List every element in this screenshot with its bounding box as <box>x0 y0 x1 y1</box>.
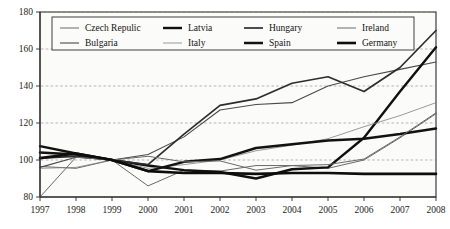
legend-label-ireland: Ireland <box>362 23 389 33</box>
x-tick-label: 2002 <box>211 205 230 215</box>
y-axis-labels: 80100120140160180 <box>19 7 34 202</box>
legend-label-hungary: Hungary <box>269 23 302 33</box>
legend: Czech RepulicLatviaHungaryIrelandBulgari… <box>52 17 414 50</box>
legend-label-spain: Spain <box>269 38 291 48</box>
y-axis-ticks <box>36 12 40 197</box>
x-axis-labels: 1997199819992000200120022003200420052006… <box>31 205 446 215</box>
x-tick-label: 2004 <box>283 205 302 215</box>
x-tick-label: 1998 <box>67 205 86 215</box>
x-axis-ticks <box>40 197 436 201</box>
y-tick-label: 100 <box>19 155 34 165</box>
legend-label-czech-repulic: Czech Repulic <box>85 23 141 33</box>
x-tick-label: 1999 <box>103 205 122 215</box>
y-tick-label: 180 <box>19 7 34 17</box>
legend-label-latvia: Latvia <box>188 23 213 33</box>
x-tick-label: 2005 <box>319 205 338 215</box>
x-tick-label: 2003 <box>247 205 266 215</box>
y-tick-label: 160 <box>19 44 34 54</box>
legend-label-italy: Italy <box>188 38 206 48</box>
legend-label-bulgaria: Bulgaria <box>85 38 118 48</box>
legend-label-germany: Germany <box>362 38 398 48</box>
chart-canvas: 80100120140160180 1997199819992000200120… <box>0 0 450 229</box>
y-tick-label: 120 <box>19 118 34 128</box>
y-tick-label: 140 <box>19 81 34 91</box>
x-tick-label: 2007 <box>391 205 410 215</box>
x-tick-label: 2000 <box>139 205 158 215</box>
x-tick-label: 2008 <box>427 205 446 215</box>
line-chart: 80100120140160180 1997199819992000200120… <box>0 0 450 229</box>
x-tick-label: 1997 <box>31 205 50 215</box>
y-tick-label: 80 <box>24 192 34 202</box>
x-tick-label: 2001 <box>175 205 194 215</box>
x-tick-label: 2006 <box>355 205 374 215</box>
